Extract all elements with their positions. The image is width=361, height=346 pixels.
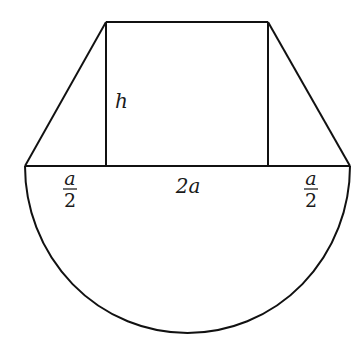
left-fraction-denominator: 2 xyxy=(64,189,76,211)
height-label: h xyxy=(115,89,128,113)
middle-segment-label: 2a xyxy=(175,174,201,198)
right-fraction-numerator: a xyxy=(305,167,316,189)
left-fraction-numerator: a xyxy=(64,167,75,189)
left-slant-side xyxy=(25,22,106,166)
geometry-diagram: h a 2 2a a 2 xyxy=(0,0,361,346)
left-segment-fraction: a 2 xyxy=(63,167,77,211)
right-fraction-denominator: 2 xyxy=(305,189,317,211)
right-slant-side xyxy=(268,22,350,166)
right-segment-fraction: a 2 xyxy=(304,167,318,211)
